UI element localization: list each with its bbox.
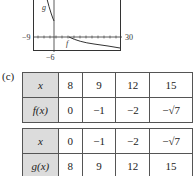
row-header: f(x) xyxy=(23,98,59,123)
graph-window: g f xyxy=(33,0,121,51)
cell: 8 xyxy=(58,73,82,98)
table-g: x 0 −1 −2 −√7 g(x) 8 9 12 15 xyxy=(22,128,193,176)
cell: 9 xyxy=(82,154,116,177)
table-row: x 8 9 12 15 xyxy=(23,73,193,98)
cell: 0 xyxy=(58,129,82,154)
cell: 9 xyxy=(82,73,116,98)
cell: −2 xyxy=(116,129,150,154)
cell: 15 xyxy=(150,154,193,177)
table-row: x 0 −1 −2 −√7 xyxy=(23,129,193,154)
part-label: (c) xyxy=(2,70,14,82)
xmin-label: −9 xyxy=(22,33,31,42)
table-row: f(x) 0 −1 −2 −√7 xyxy=(23,98,193,123)
curve-label-f: f xyxy=(66,39,68,48)
row-header: g(x) xyxy=(23,154,59,177)
xmax-label: 30 xyxy=(125,33,133,42)
row-header: x xyxy=(23,129,59,154)
function-plot xyxy=(34,0,122,52)
cell: −√7 xyxy=(150,129,193,154)
cell: 12 xyxy=(116,73,150,98)
curve-label-g: g xyxy=(42,3,46,12)
cell: 8 xyxy=(58,154,82,177)
cell: −1 xyxy=(82,98,116,123)
cell: −1 xyxy=(82,129,116,154)
row-header: x xyxy=(23,73,59,98)
cell: −2 xyxy=(116,98,150,123)
cell: 15 xyxy=(150,73,193,98)
cell: −√7 xyxy=(150,98,193,123)
ymin-label: −6 xyxy=(46,53,55,62)
table-f: x 8 9 12 15 f(x) 0 −1 −2 −√7 xyxy=(22,72,193,123)
table-row: g(x) 8 9 12 15 xyxy=(23,154,193,177)
cell: 0 xyxy=(58,98,82,123)
cell: 12 xyxy=(116,154,150,177)
